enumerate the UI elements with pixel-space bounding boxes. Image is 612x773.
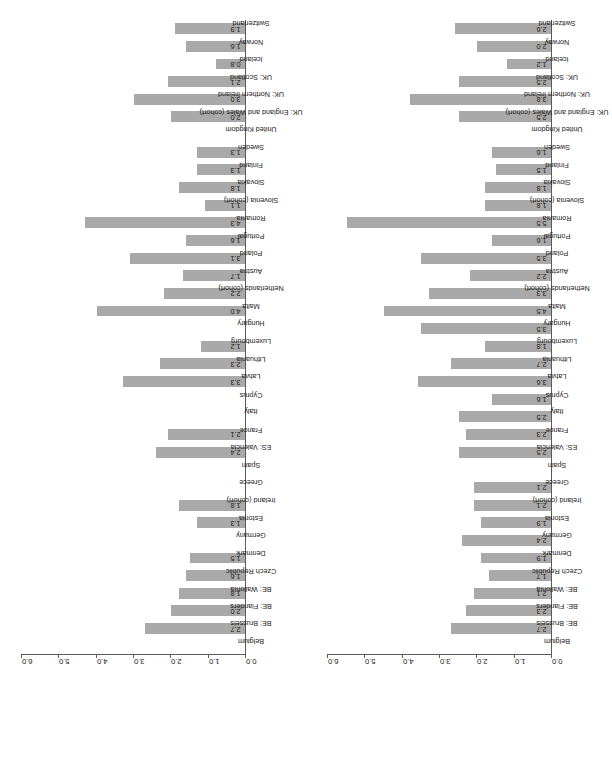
bar-slot[interactable]: 1.6 [328,390,552,408]
bar-slot[interactable]: 1.6 [22,232,246,250]
bar-slot[interactable]: 2.5 [328,443,552,461]
bar[interactable]: 1.8 [179,182,246,193]
bar-slot[interactable]: 1.8 [328,196,552,214]
bar-slot[interactable]: 1.9 [328,514,552,532]
bar-slot[interactable] [22,479,246,497]
bar-slot[interactable]: 1.3 [22,161,246,179]
bar[interactable]: 1.5 [496,164,552,175]
bar-slot[interactable]: 1.8 [22,584,246,602]
bar-slot[interactable]: 4.3 [22,214,246,232]
bar-slot[interactable]: 1.7 [328,567,552,585]
bar[interactable]: 1.9 [481,517,552,528]
bar-slot[interactable]: 3.0 [22,91,246,109]
bar-slot[interactable]: 2.1 [328,479,552,497]
bar-slot[interactable] [22,408,246,426]
bar[interactable]: 4.0 [97,306,246,317]
category-label: Slovakia [237,179,264,188]
bar-slot[interactable] [328,126,552,144]
bar[interactable]: 1.9 [481,553,552,564]
bar-slot[interactable]: 2.3 [328,602,552,620]
bar[interactable]: 2.3 [160,358,246,369]
bar[interactable]: 4.3 [85,217,246,228]
category-label: United Kingdom [531,126,582,135]
bar-slot[interactable]: 3.5 [328,320,552,338]
bar-slot[interactable]: 2.1 [22,73,246,91]
bar-slot[interactable] [328,637,552,655]
bar-slot[interactable] [22,532,246,550]
bar[interactable]: 1.8 [485,182,552,193]
bar[interactable]: 2.3 [466,429,552,440]
bar-slot[interactable]: 2.0 [22,602,246,620]
bar-slot[interactable]: 3.5 [328,249,552,267]
bar[interactable]: 3.5 [421,323,552,334]
bar-slot[interactable]: 2.4 [328,532,552,550]
bar-slot[interactable]: 1.6 [22,567,246,585]
bar[interactable]: 3.6 [418,376,552,387]
bar-slot[interactable]: 1.5 [328,161,552,179]
bar-slot[interactable] [328,461,552,479]
axis-tick-label: 3.0 [134,657,145,666]
bar-slot[interactable]: 2.3 [22,355,246,373]
bar[interactable]: 2.0 [477,41,552,52]
bar-slot[interactable]: 0.8 [22,55,246,73]
category-label: BE: Brussels [536,620,577,629]
bar[interactable]: 1.6 [492,394,552,405]
bar-slot[interactable]: 2.6 [328,20,552,38]
bar[interactable]: 4.5 [384,306,552,317]
bar-slot[interactable]: 1.2 [22,337,246,355]
bar-slot[interactable]: 1.5 [22,549,246,567]
bar-slot[interactable]: 4.0 [22,302,246,320]
bar-slot[interactable]: 2.4 [22,443,246,461]
bar-slot[interactable] [22,126,246,144]
bar[interactable]: 2.1 [474,482,552,493]
bar-slot[interactable]: 2.7 [328,620,552,638]
bar-slot[interactable]: 1.6 [328,143,552,161]
bar-slot[interactable]: 3.6 [328,373,552,391]
bar[interactable]: 2.7 [451,358,552,369]
bar-slot[interactable]: 1.7 [22,267,246,285]
bar-slot[interactable]: 3.3 [328,285,552,303]
bar-slot[interactable]: 2.5 [328,73,552,91]
bar-slot[interactable] [22,320,246,338]
bar[interactable]: 3.3 [123,376,246,387]
bar-slot[interactable]: 2.0 [328,38,552,56]
bar[interactable]: 3.1 [130,253,246,264]
bar-slot[interactable]: 1.8 [22,179,246,197]
bar-slot[interactable]: 2.5 [328,408,552,426]
bar-slot[interactable]: 2.3 [328,426,552,444]
bar-slot[interactable]: 1.3 [22,514,246,532]
bar-slot[interactable]: 2.2 [328,267,552,285]
bar-slot[interactable]: 1.9 [328,549,552,567]
bar-slot[interactable]: 2.7 [328,355,552,373]
bar-slot[interactable]: 4.5 [328,302,552,320]
bar-slot[interactable]: 2.1 [328,584,552,602]
bar-slot[interactable] [22,461,246,479]
bar-slot[interactable]: 3.8 [328,91,552,109]
bar[interactable]: 1.7 [183,270,246,281]
bar-slot[interactable]: 1.8 [328,179,552,197]
bar-slot[interactable]: 3.1 [22,249,246,267]
bar-slot[interactable]: 1.8 [328,337,552,355]
bar-slot[interactable] [22,390,246,408]
bar[interactable]: 2.2 [470,270,552,281]
bar-slot[interactable]: 5.5 [328,214,552,232]
bar-slot[interactable] [22,637,246,655]
bar-slot[interactable]: 1.1 [22,196,246,214]
bar-slot[interactable]: 1.6 [22,38,246,56]
bar[interactable]: 3.5 [421,253,552,264]
bar[interactable]: 2.5 [459,411,552,422]
bar[interactable]: 2.4 [462,535,552,546]
bar-slot[interactable]: 1.3 [22,143,246,161]
bar[interactable]: 5.5 [347,217,552,228]
bar-slot[interactable]: 2.1 [328,496,552,514]
bar[interactable]: 1.6 [186,41,246,52]
bar-slot[interactable]: 1.8 [22,496,246,514]
bar-slot[interactable]: 1.2 [328,55,552,73]
bar-slot[interactable]: 2.2 [22,285,246,303]
bar-slot[interactable]: 3.3 [22,373,246,391]
bar-slot[interactable]: 2.7 [22,620,246,638]
bar-slot[interactable]: 1.9 [22,20,246,38]
bar-slot[interactable]: 2.1 [22,426,246,444]
bar-slot[interactable]: 1.6 [328,232,552,250]
bar[interactable]: 2.1 [168,429,246,440]
